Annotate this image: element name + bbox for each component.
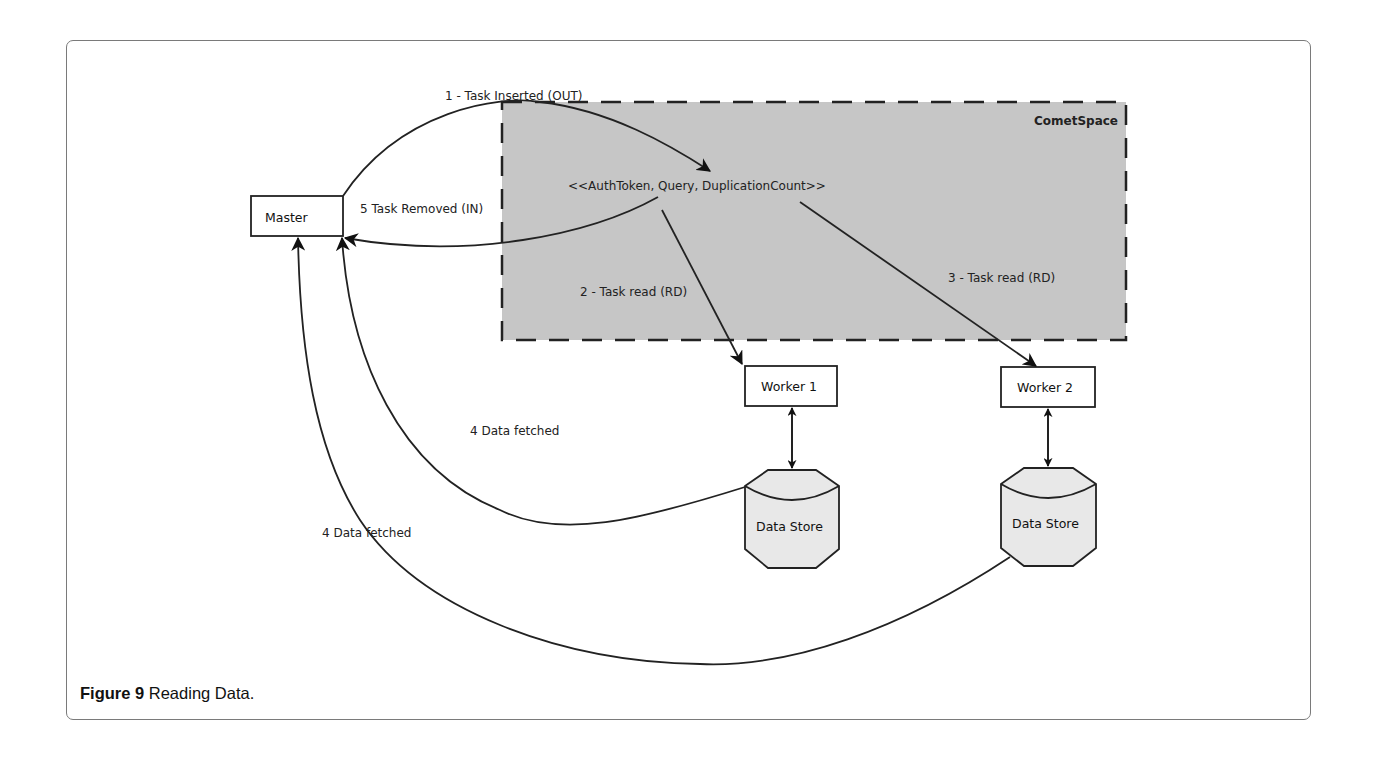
comet-space-title: CometSpace xyxy=(1034,114,1118,128)
figure-caption: Figure 9 Reading Data. xyxy=(80,684,254,703)
worker-1-node: Worker 1 xyxy=(745,366,837,406)
edge-data-fetched-1-label: 4 Data fetched xyxy=(470,424,559,438)
data-store-2-label: Data Store xyxy=(1012,516,1079,531)
comet-space-region: CometSpace <<AuthToken, Query, Duplicati… xyxy=(502,102,1126,340)
edge-task-read-1-label: 2 - Task read (RD) xyxy=(580,285,687,299)
worker-2-node: Worker 2 xyxy=(1001,367,1095,407)
data-store-1-label: Data Store xyxy=(756,519,823,534)
worker-2-label: Worker 2 xyxy=(1017,380,1073,395)
diagram-canvas: CometSpace <<AuthToken, Query, Duplicati… xyxy=(0,0,1381,758)
master-label: Master xyxy=(265,210,309,225)
edge-task-removed-label: 5 Task Removed (IN) xyxy=(360,202,483,216)
tuple-label: <<AuthToken, Query, DuplicationCount>> xyxy=(568,179,826,193)
data-store-1: Data Store xyxy=(745,470,839,568)
edge-data-fetched-2-label: 4 Data fetched xyxy=(322,526,411,540)
master-node: Master xyxy=(251,196,343,236)
worker-1-label: Worker 1 xyxy=(761,379,817,394)
data-store-2: Data Store xyxy=(1001,468,1096,566)
edge-task-inserted-label: 1 - Task Inserted (OUT) xyxy=(445,89,582,103)
figure-caption-label: Figure 9 xyxy=(80,684,144,702)
edge-task-read-2-label: 3 - Task read (RD) xyxy=(948,271,1055,285)
figure-caption-text: Reading Data. xyxy=(144,684,254,702)
